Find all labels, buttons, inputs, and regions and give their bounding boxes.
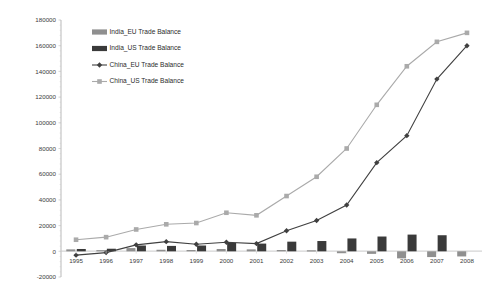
- data-point-marker: [314, 174, 319, 179]
- line-series-china-eu: [73, 43, 469, 258]
- data-point-marker: [314, 218, 319, 223]
- y-axis-tick-label: 60000: [39, 170, 57, 177]
- x-axis-tick-label: 2002: [280, 257, 294, 264]
- bar: [126, 248, 135, 251]
- bar: [137, 246, 146, 252]
- data-point-marker: [284, 194, 289, 199]
- x-axis-tick-label: 2007: [430, 257, 444, 264]
- bar: [197, 246, 206, 252]
- data-point-marker: [224, 210, 229, 215]
- legend-marker: [97, 79, 102, 84]
- bar: [347, 238, 356, 251]
- bar: [307, 250, 316, 251]
- bar: [257, 244, 266, 252]
- x-axis-tick-label: 1999: [189, 257, 203, 264]
- bar: [378, 237, 387, 252]
- bar: [187, 250, 196, 251]
- y-axis-tick-label: 40000: [39, 196, 57, 203]
- chart-legend: India_EU Trade BalanceIndia_US Trade Bal…: [92, 28, 184, 86]
- legend-marker: [97, 62, 102, 67]
- x-axis-tick-labels: 1995199619971998199920002001200220032004…: [69, 251, 474, 263]
- legend-label: India_EU Trade Balance: [110, 28, 182, 36]
- data-point-marker: [344, 146, 349, 151]
- x-axis-tick-label: 1996: [99, 257, 113, 264]
- x-axis-tick-label: 2006: [400, 257, 414, 264]
- x-axis-tick-label: 1997: [129, 257, 143, 264]
- y-axis-tick-label: 180000: [35, 16, 56, 23]
- data-point-marker: [164, 222, 169, 227]
- y-axis-tick-label: 140000: [35, 68, 56, 75]
- bar: [66, 249, 75, 251]
- data-point-marker: [405, 64, 410, 69]
- data-point-marker: [435, 40, 440, 45]
- bar: [167, 246, 176, 251]
- bar: [277, 250, 286, 251]
- y-axis-tick-label: 20000: [39, 222, 57, 229]
- legend-swatch: [92, 46, 107, 51]
- data-point-marker: [104, 235, 109, 240]
- x-axis-tick-label: 2003: [310, 257, 324, 264]
- data-point-marker: [194, 221, 199, 226]
- x-axis-tick-label: 1998: [159, 257, 173, 264]
- x-axis-tick-label: 1995: [69, 257, 83, 264]
- y-axis-tick-labels: 1800001600001400001200001000008000060000…: [35, 16, 56, 280]
- chart-container: 1800001600001400001200001000008000060000…: [0, 0, 488, 294]
- x-axis-tick-label: 2008: [460, 257, 474, 264]
- x-axis-tick-label: 2005: [370, 257, 384, 264]
- y-axis-tick-label: -20000: [37, 273, 57, 280]
- data-point-marker: [134, 227, 139, 232]
- bar: [287, 242, 296, 252]
- y-axis-tick-label: 0: [53, 248, 57, 255]
- y-axis-tick-label: 80000: [39, 145, 57, 152]
- bar: [408, 235, 417, 252]
- legend-label: China_US Trade Balance: [110, 77, 185, 85]
- bar: [96, 250, 105, 251]
- bar: [367, 251, 376, 254]
- y-axis-tick-label: 160000: [35, 42, 56, 49]
- bar: [438, 235, 447, 251]
- bar: [227, 243, 236, 251]
- data-point-marker: [74, 237, 79, 242]
- data-point-marker: [284, 228, 289, 233]
- legend-label: China_EU Trade Balance: [110, 61, 185, 69]
- y-axis-tick-label: 120000: [35, 93, 56, 100]
- bar: [157, 250, 166, 252]
- x-axis-tick-label: 2004: [340, 257, 354, 264]
- data-point-marker: [254, 213, 259, 218]
- data-point-marker: [465, 31, 470, 36]
- bar: [317, 241, 326, 251]
- bar: [217, 249, 226, 251]
- y-axis-tick-label: 100000: [35, 119, 56, 126]
- legend-swatch: [92, 29, 107, 34]
- x-axis-tick-label: 2000: [220, 257, 234, 264]
- data-point-marker: [164, 239, 169, 244]
- bar: [77, 249, 86, 251]
- legend-label: India_US Trade Balance: [110, 44, 182, 52]
- data-point-marker: [374, 103, 379, 108]
- bar: [247, 249, 256, 251]
- bar: [337, 251, 346, 253]
- trade-balance-chart: 1800001600001400001200001000008000060000…: [0, 0, 488, 294]
- x-axis-tick-label: 2001: [250, 257, 264, 264]
